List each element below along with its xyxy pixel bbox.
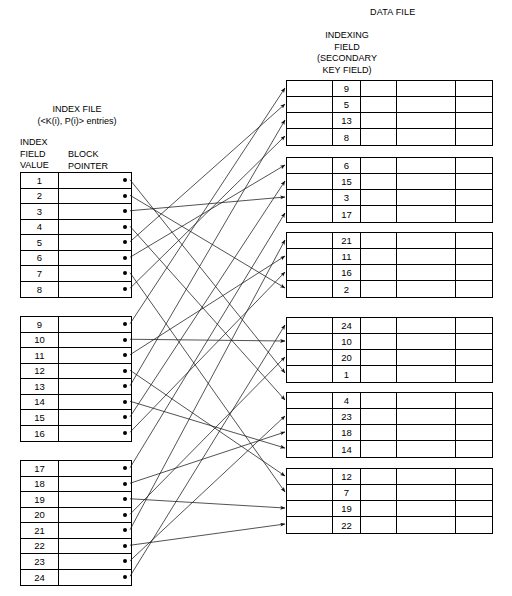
block-pointer-cell[interactable] xyxy=(59,508,131,523)
record-field-cell xyxy=(397,281,456,297)
data-record-row[interactable]: 1 xyxy=(287,366,492,382)
data-record-row[interactable]: 18 xyxy=(287,425,492,441)
block-pointer-cell[interactable] xyxy=(59,266,131,281)
index-entry[interactable]: 8 xyxy=(21,282,131,298)
data-record-row[interactable]: 15 xyxy=(287,174,492,190)
index-entry[interactable]: 3 xyxy=(21,204,131,220)
data-record-row[interactable]: 9 xyxy=(287,81,492,97)
indexing-field-value: 15 xyxy=(333,174,361,189)
index-entry[interactable]: 24 xyxy=(21,570,131,586)
record-field-cell xyxy=(287,409,333,424)
block-pointer-cell[interactable] xyxy=(59,477,131,492)
block-pointer-cell[interactable] xyxy=(59,492,131,507)
record-field-cell xyxy=(361,249,397,264)
record-field-cell xyxy=(456,318,492,333)
record-field-cell xyxy=(287,517,333,533)
block-pointer-cell[interactable] xyxy=(59,570,131,586)
data-record-row[interactable]: 13 xyxy=(287,113,492,129)
record-field-cell xyxy=(397,318,456,333)
index-entry[interactable]: 21 xyxy=(21,523,131,539)
index-entry[interactable]: 13 xyxy=(21,379,131,395)
index-entry[interactable]: 4 xyxy=(21,220,131,236)
block-pointer-cell[interactable] xyxy=(59,410,131,425)
index-field-value: 11 xyxy=(21,348,59,363)
data-record-row[interactable]: 20 xyxy=(287,350,492,366)
data-record-row[interactable]: 17 xyxy=(287,206,492,222)
data-record-row[interactable]: 10 xyxy=(287,334,492,350)
index-entry[interactable]: 18 xyxy=(21,477,131,493)
block-pointer-cell[interactable] xyxy=(59,364,131,379)
block-pointer-cell[interactable] xyxy=(59,220,131,235)
block-pointer-cell[interactable] xyxy=(59,539,131,554)
block-pointer-cell[interactable] xyxy=(59,523,131,538)
block-pointer-cell[interactable] xyxy=(59,204,131,219)
index-field-value: 19 xyxy=(21,492,59,507)
block-pointer-cell[interactable] xyxy=(59,379,131,394)
data-record-row[interactable]: 7 xyxy=(287,485,492,501)
block-pointer-cell[interactable] xyxy=(59,282,131,298)
record-field-cell xyxy=(456,425,492,440)
index-pointer-line xyxy=(130,213,285,468)
index-pointer-line xyxy=(130,339,285,341)
data-record-row[interactable]: 19 xyxy=(287,501,492,517)
record-field-cell xyxy=(361,265,397,280)
data-record-row[interactable]: 5 xyxy=(287,97,492,113)
index-entry[interactable]: 20 xyxy=(21,508,131,524)
index-entry[interactable]: 7 xyxy=(21,266,131,282)
data-record-row[interactable]: 16 xyxy=(287,265,492,281)
index-pointer-line xyxy=(130,136,285,288)
index-entry[interactable]: 2 xyxy=(21,189,131,205)
block-pointer-cell[interactable] xyxy=(59,317,131,332)
index-entry[interactable]: 15 xyxy=(21,410,131,426)
index-entry[interactable]: 23 xyxy=(21,554,131,570)
data-record-row[interactable]: 6 xyxy=(287,158,492,174)
data-record-row[interactable]: 8 xyxy=(287,129,492,145)
block-pointer-cell[interactable] xyxy=(59,461,131,476)
index-entry[interactable]: 11 xyxy=(21,348,131,364)
index-entry[interactable]: 16 xyxy=(21,426,131,442)
data-record-row[interactable]: 3 xyxy=(287,190,492,206)
pointer-dot-icon xyxy=(123,575,127,579)
block-pointer-cell[interactable] xyxy=(59,426,131,442)
index-entry[interactable]: 1 xyxy=(21,173,131,189)
data-record-row[interactable]: 2 xyxy=(287,281,492,297)
index-entry[interactable]: 22 xyxy=(21,539,131,555)
block-pointer-cell[interactable] xyxy=(59,554,131,569)
index-entry[interactable]: 10 xyxy=(21,333,131,349)
data-record-row[interactable]: 11 xyxy=(287,249,492,265)
data-record-row[interactable]: 22 xyxy=(287,517,492,533)
index-entry[interactable]: 5 xyxy=(21,235,131,251)
data-block-6: 1271922 xyxy=(286,468,493,534)
data-record-row[interactable]: 14 xyxy=(287,441,492,457)
data-record-row[interactable]: 21 xyxy=(287,233,492,249)
data-record-row[interactable]: 24 xyxy=(287,318,492,334)
block-pointer-cell[interactable] xyxy=(59,333,131,348)
block-pointer-cell[interactable] xyxy=(59,251,131,266)
index-entry[interactable]: 12 xyxy=(21,364,131,380)
index-entry[interactable]: 19 xyxy=(21,492,131,508)
record-field-cell xyxy=(361,501,397,516)
record-field-cell xyxy=(456,158,492,173)
record-field-cell xyxy=(361,425,397,440)
block-pointer-cell[interactable] xyxy=(59,348,131,363)
block-pointer-cell[interactable] xyxy=(59,235,131,250)
data-record-row[interactable]: 4 xyxy=(287,393,492,409)
index-entry[interactable]: 17 xyxy=(21,461,131,477)
data-block-5: 4231814 xyxy=(286,392,493,458)
block-pointer-cell[interactable] xyxy=(59,189,131,204)
data-record-row[interactable]: 23 xyxy=(287,409,492,425)
block-pointer-cell[interactable] xyxy=(59,395,131,410)
index-field-value: 9 xyxy=(21,317,59,332)
index-entry[interactable]: 9 xyxy=(21,317,131,333)
record-field-cell xyxy=(397,425,456,440)
record-field-cell xyxy=(456,517,492,533)
indexing-field-value: 2 xyxy=(333,281,361,297)
index-entry[interactable]: 14 xyxy=(21,395,131,411)
record-field-cell xyxy=(287,81,333,96)
index-entry[interactable]: 6 xyxy=(21,251,131,267)
record-field-cell xyxy=(456,441,492,457)
indexing-field-value: 6 xyxy=(333,158,361,173)
data-record-row[interactable]: 12 xyxy=(287,469,492,485)
record-field-cell xyxy=(456,97,492,112)
block-pointer-cell[interactable] xyxy=(59,173,131,188)
